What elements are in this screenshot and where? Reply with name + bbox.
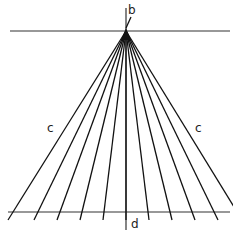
fan-line [126,31,233,220]
arrow-tick [126,17,131,28]
fan-line [80,31,126,220]
label-b: b [128,3,136,17]
label-d: d [131,217,139,230]
fan-line [126,31,149,220]
label-c-left: c [47,121,54,135]
fan-line [103,31,126,220]
label-c-right: c [195,121,202,135]
fan-line [126,31,172,220]
apex-point [121,28,131,40]
fan-diagram: b c c d [0,0,233,230]
fan-line [126,31,218,220]
